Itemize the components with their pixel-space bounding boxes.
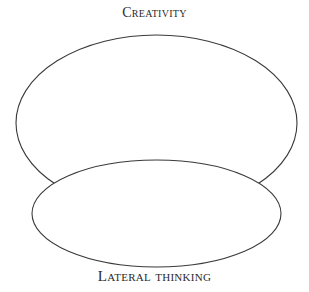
lateral-thinking-ellipse	[32, 160, 281, 267]
venn-diagram	[0, 0, 309, 292]
lateral-thinking-label: Lateral thinking	[0, 268, 309, 285]
